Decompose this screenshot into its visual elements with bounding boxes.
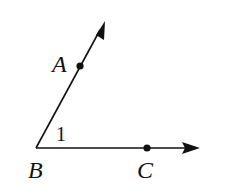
point-c: [143, 144, 150, 151]
label-a: A: [50, 51, 67, 77]
label-b: B: [28, 157, 43, 183]
arrowhead-a-icon: [96, 21, 105, 40]
ray-ba: [36, 30, 100, 148]
angle-diagram: A B C 1: [0, 0, 226, 195]
diagram-svg: A B C 1: [0, 0, 226, 195]
angle-label: 1: [56, 123, 66, 145]
point-a: [76, 62, 83, 69]
label-c: C: [137, 157, 154, 183]
